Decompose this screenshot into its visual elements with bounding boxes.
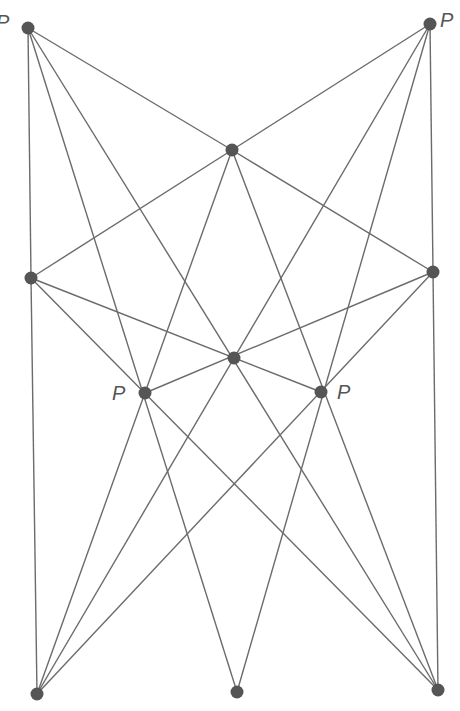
segment-E-G: [145, 272, 433, 393]
segment-B-C: [232, 24, 430, 150]
segment-D-H: [31, 278, 321, 392]
segment-B-E: [430, 24, 433, 272]
point-I: [31, 688, 44, 701]
point-label: P: [337, 382, 350, 402]
point-label: P: [440, 10, 453, 30]
diagram-canvas: PPPP: [0, 0, 460, 711]
segment-E-I: [37, 272, 433, 694]
point-D: [25, 272, 38, 285]
point-C: [226, 144, 239, 157]
point-B: [424, 18, 437, 31]
segment-C-K: [232, 150, 438, 690]
segment-D-I: [31, 278, 37, 694]
point-line-diagram: [0, 0, 460, 711]
segment-E-K: [433, 272, 438, 690]
segment-E-C: [232, 150, 433, 272]
segment-A-C: [28, 28, 232, 150]
point-label: P: [0, 12, 9, 32]
point-label: P: [112, 383, 125, 403]
point-A: [22, 22, 35, 35]
point-J: [231, 686, 244, 699]
point-E: [427, 266, 440, 279]
point-H: [315, 386, 328, 399]
point-G: [139, 387, 152, 400]
segment-C-I: [37, 150, 232, 694]
point-F: [228, 352, 241, 365]
segment-A-D: [28, 28, 31, 278]
point-K: [432, 684, 445, 697]
segment-D-C: [31, 150, 232, 278]
